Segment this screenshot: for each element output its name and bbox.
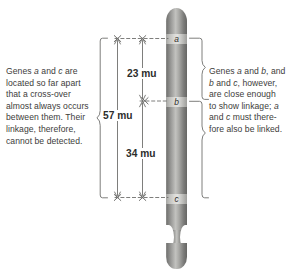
chromosome: a b c xyxy=(163,4,191,269)
right-caption-line-3: are close enough xyxy=(209,89,276,99)
measure-label-34-mu: 34 mu xyxy=(124,148,157,159)
left-caption-text: Genes a and c are located so far apart t… xyxy=(6,66,102,147)
arrowhead-down-57 xyxy=(115,192,121,198)
measure-label-57-mu: 57 mu xyxy=(101,110,134,121)
left-caption-line-6: linkage, therefore, xyxy=(6,124,76,134)
right-brace-34 xyxy=(190,101,209,198)
arrowhead-down-34 xyxy=(140,192,146,198)
gene-label-a: a xyxy=(166,34,187,44)
right-caption-line-4: to show linkage; a xyxy=(209,101,279,111)
crossover-x-top-outer xyxy=(114,36,121,42)
left-caption-line-2: located so far apart xyxy=(6,78,81,88)
right-caption-line-5: and c must there- xyxy=(209,112,277,122)
arrowhead-up-34 xyxy=(140,101,146,107)
arrowhead-up-57 xyxy=(115,38,121,44)
right-caption-text: Genes a and b, and b and c, however, are… xyxy=(209,66,303,136)
crossover-x-bottom-inner xyxy=(139,195,146,201)
chromosome-short-arm xyxy=(166,243,187,269)
left-caption-line-3: that a cross-over xyxy=(6,89,71,99)
left-caption-line-5: between them. Their xyxy=(6,112,85,122)
gene-label-c: c xyxy=(166,194,187,204)
figure-canvas: Genes a and c are located so far apart t… xyxy=(0,0,306,273)
right-caption-line-1: Genes a and b, and xyxy=(209,66,285,76)
right-caption-line-6: fore also be linked. xyxy=(209,124,282,134)
left-caption-line-7: cannot be detected. xyxy=(6,136,82,146)
measure-label-23-mu: 23 mu xyxy=(125,68,158,79)
left-caption-line-1: Genes a and c are xyxy=(6,66,78,76)
arrowhead-down-23 xyxy=(140,95,146,101)
crossover-x-middle xyxy=(142,98,149,104)
crossover-x-top-inner xyxy=(139,36,146,42)
right-caption-line-2: b and c, however, xyxy=(209,78,277,88)
gene-label-b: b xyxy=(166,97,187,107)
arrowhead-up-23 xyxy=(140,38,146,44)
right-brace-23 xyxy=(190,38,209,99)
crossover-x-bottom-outer xyxy=(114,195,121,201)
left-caption-line-4: almost always occurs xyxy=(6,101,89,111)
